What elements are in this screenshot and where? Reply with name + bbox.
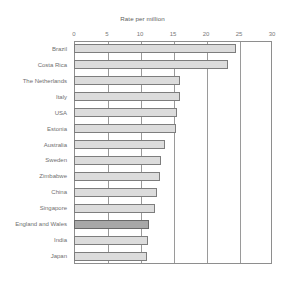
bar-row: Australia	[0, 137, 285, 153]
bar-costa-rica	[74, 60, 228, 69]
x-tick-label-10: 10	[137, 30, 144, 39]
category-label-sweden: Sweden	[45, 155, 67, 165]
bar-row: China	[0, 184, 285, 200]
bar-row: Zimbabwe	[0, 168, 285, 184]
bar-row: Costa Rica	[0, 57, 285, 73]
bar-italy	[74, 92, 180, 101]
bar-the-netherlands	[74, 76, 180, 85]
x-tick-label-0: 0	[72, 30, 75, 39]
category-label-the-netherlands: The Netherlands	[23, 76, 67, 86]
bar-zimbabwe	[74, 172, 160, 181]
category-label-japan: Japan	[51, 251, 67, 261]
bar-row: Italy	[0, 89, 285, 105]
category-label-australia: Australia	[44, 140, 67, 150]
category-label-brazil: Brazil	[52, 44, 67, 54]
bar-estonia	[74, 124, 176, 133]
bar-sweden	[74, 156, 161, 165]
bar-australia	[74, 140, 165, 149]
bar-row: The Netherlands	[0, 73, 285, 89]
category-label-singapore: Singapore	[40, 203, 67, 213]
bar-brazil	[74, 44, 236, 53]
category-label-italy: Italy	[56, 92, 67, 102]
bar-row: India	[0, 232, 285, 248]
x-tick-label-20: 20	[203, 30, 210, 39]
category-label-usa: USA	[55, 108, 67, 118]
bar-row: Brazil	[0, 41, 285, 57]
category-label-england-and-wales: England and Wales	[15, 219, 67, 229]
bar-row: England and Wales	[0, 216, 285, 232]
bar-india	[74, 236, 148, 245]
bar-usa	[74, 108, 177, 117]
x-tick-label-25: 25	[236, 30, 243, 39]
x-axis-tick-labels: 051015202530	[0, 30, 285, 40]
x-tick-label-5: 5	[105, 30, 108, 39]
bar-japan	[74, 252, 147, 261]
category-label-china: China	[51, 187, 67, 197]
cropped-caption-sliver	[6, 0, 266, 7]
bar-england-and-wales	[74, 220, 149, 229]
category-label-zimbabwe: Zimbabwe	[39, 171, 67, 181]
chart-title: Rate per million	[0, 15, 285, 23]
bar-row: Japan	[0, 248, 285, 264]
category-label-estonia: Estonia	[47, 124, 67, 134]
bar-singapore	[74, 204, 155, 213]
bar-china	[74, 188, 157, 197]
bar-row: Singapore	[0, 200, 285, 216]
x-tick-label-30: 30	[269, 30, 276, 39]
x-tick-label-15: 15	[170, 30, 177, 39]
bar-rows: BrazilCosta RicaThe NetherlandsItalyUSAE…	[0, 41, 285, 264]
bar-row: USA	[0, 105, 285, 121]
bar-chart: Rate per million 051015202530 BrazilCost…	[0, 0, 285, 281]
bar-row: Sweden	[0, 153, 285, 169]
category-label-india: India	[54, 235, 67, 245]
bar-row: Estonia	[0, 121, 285, 137]
category-label-costa-rica: Costa Rica	[38, 60, 67, 70]
